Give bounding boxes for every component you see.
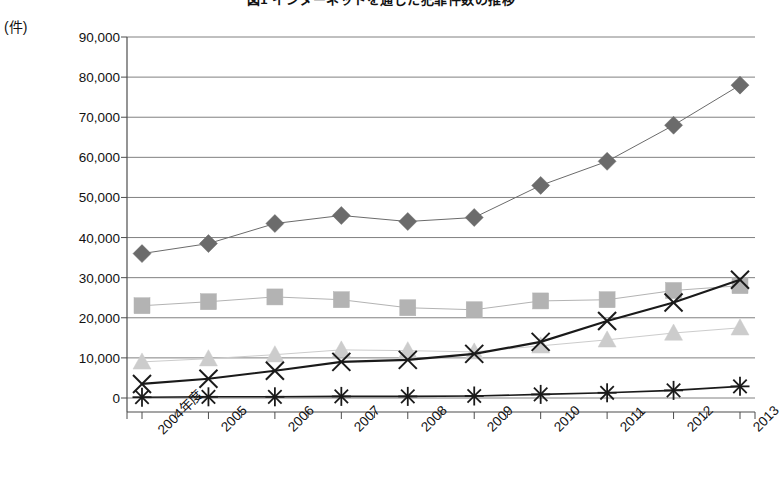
x-axis-tick-label: 2013	[750, 424, 761, 435]
x-axis-tick-label: 2011	[617, 424, 628, 435]
x-axis-tick-label: 2006	[285, 424, 296, 435]
x-axis-tick-label: 2009	[484, 424, 495, 435]
x-axis-tick-label: 2010	[551, 424, 562, 435]
x-axis-tick-label: 2012	[684, 424, 695, 435]
x-axis-tick-label: 2004年度	[152, 424, 166, 438]
x-axis-tick-label: 2008	[418, 424, 429, 435]
x-axis-tick-label: 2005	[218, 424, 229, 435]
x-axis-tick-label: 2007	[351, 424, 362, 435]
